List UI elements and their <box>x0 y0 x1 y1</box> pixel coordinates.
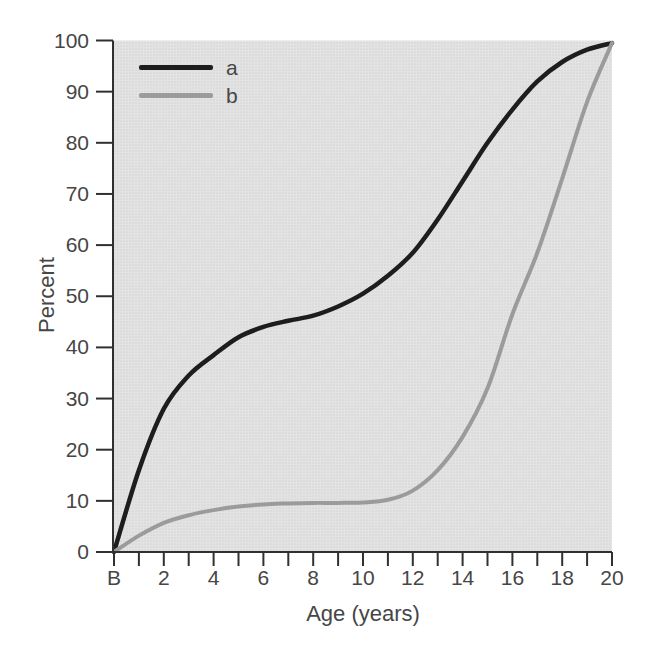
y-tick-label: 50 <box>66 284 89 307</box>
x-tick-label: 8 <box>307 566 319 589</box>
x-tick-label: B <box>107 566 121 589</box>
y-axis-title: Percent <box>34 257 60 333</box>
y-tick-label: 100 <box>54 29 89 52</box>
x-tick-label: 12 <box>401 566 424 589</box>
y-tick-label: 60 <box>66 233 89 256</box>
y-tick-label: 90 <box>66 80 89 103</box>
x-tick-label: 6 <box>258 566 270 589</box>
legend-label-b: b <box>226 85 238 106</box>
y-tick-label: 20 <box>66 438 89 461</box>
chart-canvas: 0102030405060708090100B2468101214161820 <box>0 0 660 652</box>
growth-curves-figure: 0102030405060708090100B2468101214161820 … <box>0 0 660 652</box>
x-tick-label: 20 <box>600 566 623 589</box>
legend-item-a: a <box>139 53 238 81</box>
x-tick-label: 16 <box>501 566 524 589</box>
y-tick-label: 40 <box>66 335 89 358</box>
legend-line-b-swatch <box>139 93 213 98</box>
legend-line-a-swatch <box>139 65 213 70</box>
y-tick-label: 10 <box>66 489 89 512</box>
x-tick-label: 14 <box>451 566 475 589</box>
x-axis-title: Age (years) <box>306 601 420 627</box>
y-tick-label: 70 <box>66 182 89 205</box>
x-tick-label: 18 <box>551 566 574 589</box>
y-tick-label: 0 <box>77 540 89 563</box>
legend: a b <box>139 53 238 109</box>
y-tick-label: 30 <box>66 387 89 410</box>
x-tick-label: 10 <box>351 566 374 589</box>
y-tick-label: 80 <box>66 131 89 154</box>
x-tick-label: 2 <box>158 566 170 589</box>
legend-label-a: a <box>226 57 238 78</box>
legend-item-b: b <box>139 81 238 109</box>
x-tick-label: 4 <box>208 566 220 589</box>
